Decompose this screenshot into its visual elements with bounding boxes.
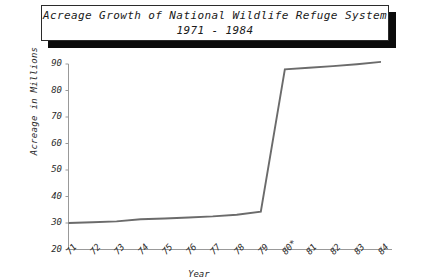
chart-plot-area: Acreage in Millions 2030405060708090 717… xyxy=(0,0,436,278)
acreage-data-line xyxy=(69,62,382,223)
chart-canvas xyxy=(0,0,436,278)
x-axis-title: Year xyxy=(188,269,210,278)
x-axis-tick-labels: 71727374757677787980*81828384 xyxy=(0,250,436,278)
